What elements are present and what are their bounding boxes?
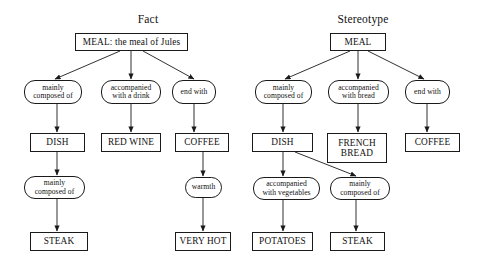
node-f-rel-1[interactable]: mainly composed of — [24, 80, 82, 104]
node-s-rel-4[interactable]: accompanied with vegetables — [253, 177, 320, 200]
node-s-rel-3[interactable]: end with — [405, 80, 450, 104]
node-f-warmth[interactable]: warmth — [185, 177, 222, 198]
node-s-rel-1[interactable]: mainly composed of — [255, 80, 312, 104]
node-s-steak[interactable]: STEAK — [330, 232, 385, 251]
node-f-rel-2[interactable]: accompanied with a drink — [101, 80, 161, 104]
node-s-frenchbread[interactable]: FRENCH BREAD — [327, 133, 387, 163]
edge-f-meal-to-f-rel-3 — [143, 51, 194, 79]
edge-s-meal-to-s-rel-3 — [368, 51, 424, 79]
node-s-rel-2[interactable]: accompanied with bread — [328, 80, 389, 104]
node-f-veryhot[interactable]: VERY HOT — [175, 232, 231, 251]
node-f-dish[interactable]: DISH — [30, 133, 85, 152]
edge-f-meal-to-f-rel-1 — [55, 51, 120, 79]
node-f-redwine[interactable]: RED WINE — [101, 133, 161, 152]
node-s-potatoes[interactable]: POTATOES — [252, 232, 313, 251]
edge-s-meal-to-s-rel-1 — [285, 51, 350, 79]
node-s-coffee[interactable]: COFFEE — [405, 133, 460, 152]
node-f-rel-3[interactable]: end with — [172, 80, 216, 104]
node-s-dish[interactable]: DISH — [252, 133, 313, 152]
node-f-rel-4[interactable]: mainly composed of — [24, 176, 85, 199]
node-s-rel-5[interactable]: mainly composed of — [330, 177, 390, 200]
panel-title-fact: Fact — [88, 13, 208, 25]
panel-title-stereotype: Stereotype — [303, 13, 423, 25]
node-f-coffee[interactable]: COFFEE — [175, 133, 229, 152]
node-f-steak[interactable]: STEAK — [30, 232, 88, 251]
node-f-meal[interactable]: MEAL: the meal of Jules — [75, 33, 188, 51]
node-s-meal[interactable]: MEAL — [330, 33, 386, 51]
diagram-canvas: FactStereotype MEAL: the meal of Julesma… — [0, 0, 486, 269]
